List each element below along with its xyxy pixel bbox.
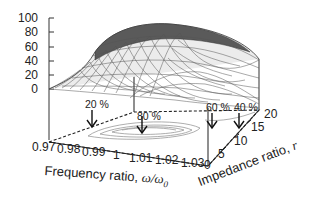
x-tick-label: 1 [113,149,120,161]
z-tick-label: 0 [0,83,38,95]
z-tick-label: 60 [0,41,38,53]
z-tick-label: 80 [0,26,38,38]
y-tick-label: 10 [234,135,247,147]
y-tick-label: 5 [218,148,225,160]
y-tick-label: 20 [264,108,277,120]
z-tick-label: 100 [0,12,38,24]
x-tick-label: 0.98 [57,143,80,155]
annotation-60-percent: 60 % [206,102,230,113]
surface-mesh [49,24,259,108]
x-tick-label: 1.02 [155,154,178,166]
annotation-20-percent: 20 % [85,99,109,110]
contour-lines [88,112,255,139]
z-tick-label: 20 [0,69,38,81]
annotation-40-percent: 40 % [234,102,258,113]
x-tick-label: 1.01 [129,152,152,164]
surface-plot: 100 80 60 40 20 0 20 % 80 % 60 % 40 % 0.… [0,0,322,209]
x-tick-label: 0.99 [82,146,105,158]
annotation-arrows [87,110,244,133]
x-tick-label: 1.03 [181,157,204,169]
z-axis [49,18,54,140]
x-tick-label: 0.97 [32,141,55,153]
annotation-80-percent: 80 % [137,111,161,122]
y-tick-label: 15 [251,121,264,133]
z-tick-label: 40 [0,55,38,67]
